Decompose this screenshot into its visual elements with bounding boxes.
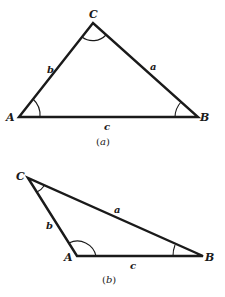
triangle-b-outline <box>28 178 203 256</box>
side-label-b-b: b <box>46 220 53 231</box>
triangle-a-outline <box>19 23 198 117</box>
vertex-label-a-A: A <box>5 111 15 124</box>
caption-a: (a) <box>96 136 110 147</box>
vertex-label-a-B: B <box>199 111 209 124</box>
triangle-b: C A B b a c (b) <box>16 170 214 285</box>
side-label-a-c: c <box>104 121 110 132</box>
triangle-a: A C B b a c (a) <box>5 8 209 147</box>
side-label-a-a: a <box>150 61 156 72</box>
side-label-a-b: b <box>47 64 54 75</box>
vertex-label-a-C: C <box>89 8 98 21</box>
vertex-label-b-C: C <box>16 170 25 183</box>
side-label-b-c: c <box>130 260 136 271</box>
angle-arc-b-C <box>37 186 44 192</box>
angle-arc-a-C <box>82 35 106 41</box>
angle-arc-b-B <box>173 245 175 256</box>
vertex-label-b-B: B <box>204 251 214 264</box>
side-label-b-a: a <box>114 204 120 215</box>
caption-b: (b) <box>102 274 116 285</box>
angle-arc-a-B <box>175 102 181 117</box>
triangles-figure: A C B b a c (a) C A B b a c (b) <box>0 0 225 297</box>
angle-arc-a-A <box>33 99 40 117</box>
vertex-label-b-A: A <box>63 251 73 264</box>
